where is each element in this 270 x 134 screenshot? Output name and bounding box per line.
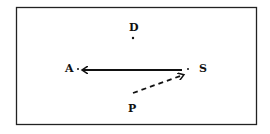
point-label-p: P (128, 102, 136, 115)
point-a-dot (77, 68, 79, 70)
diagram-canvas: D A S P (0, 0, 270, 134)
point-label-s: S (199, 62, 207, 75)
point-d-dot (132, 37, 134, 39)
dashed-arrow-p-to-s (133, 75, 183, 93)
point-s-dot (187, 68, 189, 70)
point-label-d: D (129, 21, 139, 34)
point-label-a: A (64, 62, 74, 75)
